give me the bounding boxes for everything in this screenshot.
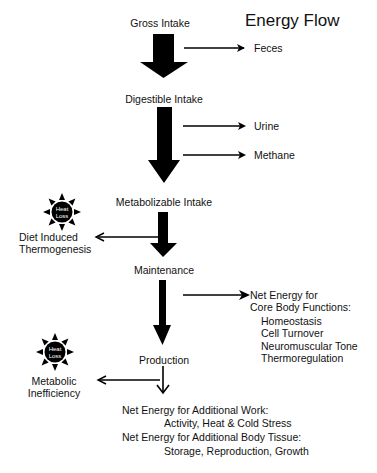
work-heading: Net Energy for Additional Work: <box>122 404 268 416</box>
svg-text:Heat: Heat <box>49 346 62 352</box>
loss-diet-induced-line1: Diet Induced <box>19 231 78 243</box>
core-heading-line2: Core Body Functions: <box>250 301 351 313</box>
loss-urine: Urine <box>254 120 279 132</box>
arrow-to-urine <box>183 122 246 130</box>
arrow-to-feces <box>184 44 245 52</box>
core-item: Thermoregulation <box>261 352 343 364</box>
arrow-metabolizable-to-maintenance <box>150 212 177 257</box>
stage-metabolizable-intake: Metabolizable Intake <box>116 196 212 208</box>
loss-diet-induced-line2: Thermogenesis <box>19 243 91 255</box>
arrow-to-metabolic-inefficiency <box>98 376 160 384</box>
diagram-title: Energy Flow <box>245 11 339 31</box>
svg-text:Loss: Loss <box>49 353 62 359</box>
stage-maintenance: Maintenance <box>134 264 194 276</box>
loss-methane: Methane <box>254 149 295 161</box>
energy-flow-diagram: Heat Loss Heat Loss Energy Flow Gross In… <box>0 0 377 473</box>
core-item: Cell Turnover <box>261 327 323 339</box>
tissue-detail: Storage, Reproduction, Growth <box>164 445 309 457</box>
arrow-digestible-to-metabolizable <box>148 107 180 183</box>
stage-production: Production <box>139 354 189 366</box>
stage-digestible-intake: Digestible Intake <box>125 93 203 105</box>
arrow-to-methane <box>183 151 246 159</box>
svg-text:Loss: Loss <box>56 213 69 219</box>
loss-metabolic-line1: Metabolic <box>32 375 77 387</box>
svg-text:Heat: Heat <box>56 206 69 212</box>
core-heading-line1: Net Energy for <box>250 289 318 301</box>
arrow-to-diet-induced-thermogenesis <box>96 233 158 241</box>
core-item: Neuromuscular Tone <box>261 340 358 352</box>
core-item: Homeostasis <box>261 315 322 327</box>
work-detail: Activity, Heat & Cold Stress <box>164 417 292 429</box>
heat-loss-sun-icon: Heat Loss <box>43 193 81 231</box>
stage-gross-intake: Gross Intake <box>130 17 190 29</box>
heat-loss-sun-icon: Heat Loss <box>36 333 74 371</box>
arrow-to-core-functions <box>183 290 250 300</box>
arrow-gross-to-digestible <box>140 34 188 78</box>
arrow-maintenance-to-production <box>153 280 171 345</box>
tissue-heading: Net Energy for Additional Body Tissue: <box>122 431 301 443</box>
loss-metabolic-line2: Inefficiency <box>28 387 80 399</box>
loss-feces: Feces <box>254 42 283 54</box>
